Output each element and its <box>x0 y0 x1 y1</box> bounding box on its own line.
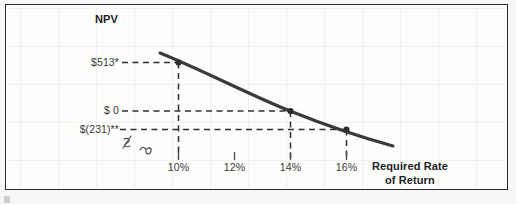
handwritten-mark-2-icon <box>140 147 151 154</box>
data-point-10pct <box>175 59 181 65</box>
x-label-10pct: 10% <box>158 161 199 173</box>
y-label-zero: $ 0 <box>62 104 119 116</box>
x-label-12pct: 12% <box>214 161 255 173</box>
chart-screenshot: NPV $513* $ 0 $(231)** 10% 12% 14% 16% R… <box>0 0 516 204</box>
npv-profile-plot <box>0 0 516 204</box>
y-label-513: $513* <box>62 56 119 68</box>
npv-curve <box>160 53 393 146</box>
x-label-16pct: 16% <box>326 161 367 173</box>
x-axis-title-line1: Required Rate <box>372 159 448 173</box>
data-point-14pct <box>287 108 293 114</box>
y-label-231: $(231)** <box>56 123 119 135</box>
y-axis-title: NPV <box>95 13 118 25</box>
x-axis-title-line2: of Return <box>385 173 435 187</box>
x-label-14pct: 14% <box>270 161 311 173</box>
scan-edge-artifact <box>4 196 10 203</box>
data-point-16pct <box>343 126 349 132</box>
